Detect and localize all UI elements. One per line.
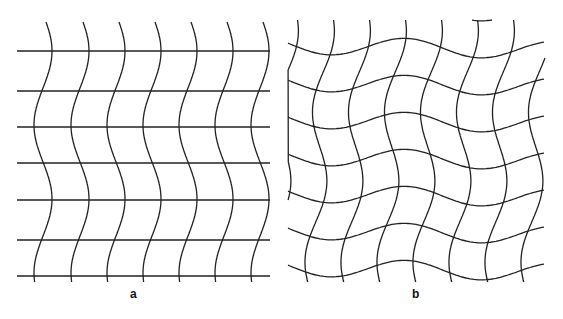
vertical-wavy-line — [71, 22, 89, 282]
vertical-wavy-line — [288, 20, 298, 200]
horizontal-wavy-line — [288, 38, 544, 58]
panel-a-label: a — [130, 287, 137, 301]
vertical-wavy-line — [107, 22, 125, 282]
vertical-wavy-line — [305, 20, 334, 282]
vertical-wavy-line — [143, 22, 161, 282]
vertical-wavy-line — [521, 58, 545, 282]
horizontal-wavy-line — [472, 20, 492, 21]
vertical-wavy-line — [34, 22, 52, 282]
horizontal-wavy-line — [288, 112, 544, 132]
panel-b-grid — [288, 20, 545, 282]
horizontal-wavy-line — [288, 75, 544, 95]
horizontal-wavy-line — [288, 260, 544, 280]
wavy-grid-figure — [0, 0, 563, 319]
panel-a-grid — [17, 22, 270, 282]
vertical-wavy-line — [341, 20, 370, 282]
vertical-wavy-line — [215, 22, 233, 282]
vertical-wavy-line — [179, 22, 197, 282]
horizontal-wavy-line — [288, 223, 544, 243]
vertical-wavy-line — [251, 22, 269, 282]
panel-b-label: b — [412, 287, 419, 301]
